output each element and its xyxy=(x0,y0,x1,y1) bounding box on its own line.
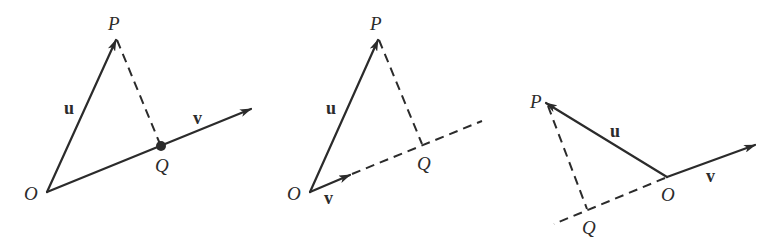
vector-u xyxy=(546,103,667,177)
label-q: Q xyxy=(582,217,596,238)
label-u: u xyxy=(326,98,336,118)
label-u: u xyxy=(64,98,74,118)
label-q: Q xyxy=(417,153,431,174)
perpendicular-pq xyxy=(548,106,587,209)
projection-diagrams: O P Q u v O P Q u v P O Q u v xyxy=(0,0,779,251)
label-u: u xyxy=(610,121,620,141)
line-through-v xyxy=(554,178,665,224)
label-o: O xyxy=(287,183,301,204)
vector-u xyxy=(310,40,378,192)
diagram-2: O P Q u v xyxy=(287,13,482,208)
label-v: v xyxy=(706,166,715,186)
perpendicular-pq xyxy=(117,40,160,144)
label-v: v xyxy=(193,108,202,128)
label-o: O xyxy=(24,183,38,204)
label-q: Q xyxy=(155,155,169,176)
point-q-dot xyxy=(156,141,166,151)
label-p: P xyxy=(107,13,120,34)
perpendicular-pq xyxy=(379,40,422,144)
vector-v xyxy=(47,109,251,192)
label-o: O xyxy=(661,184,675,205)
diagram-1: O P Q u v xyxy=(24,13,251,204)
diagram-3: P O Q u v xyxy=(529,91,755,238)
label-v: v xyxy=(324,188,333,208)
label-p: P xyxy=(529,91,542,112)
label-p: P xyxy=(369,13,382,34)
